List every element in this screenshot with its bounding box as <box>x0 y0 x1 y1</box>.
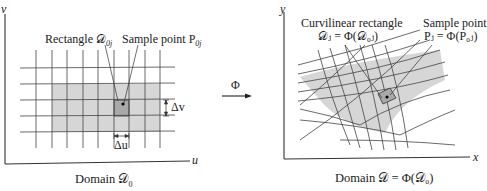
x-axis <box>284 157 470 159</box>
sample-point-label: Sample point P0j <box>122 33 202 50</box>
phi-label: Φ <box>231 79 240 92</box>
shaded-domain-region <box>52 84 160 132</box>
left-caption-sub: 0 <box>128 180 132 189</box>
rectangle-label: Rectangle 𝒟0j <box>45 33 112 50</box>
delta-v-bracket <box>163 100 169 116</box>
v-axis-label: v <box>1 3 6 16</box>
rectangle-label-text: Rectangle 𝒟 <box>45 32 106 46</box>
x-axis-label: x <box>473 151 478 164</box>
sample-point-label-sub: 0j <box>195 39 201 48</box>
left-caption-text: Domain 𝒟 <box>75 172 128 186</box>
curvilinear-rect-label-line2: 𝒟ⱼ = Φ(𝒟₀ⱼ) <box>318 30 378 43</box>
diagram-canvas <box>0 0 487 191</box>
rectangle-d0j <box>114 100 129 116</box>
arrow-head-icon <box>245 94 252 99</box>
rectangle-label-sub: 0j <box>106 39 112 48</box>
y-axis-label: y <box>280 3 285 16</box>
delta-v-label: Δv <box>171 101 185 114</box>
sample-point-pj <box>385 95 388 98</box>
delta-u-label: Δu <box>114 139 128 152</box>
left-caption: Domain 𝒟0 <box>75 172 132 189</box>
right-caption: Domain 𝒟 = Φ(𝒟₀) <box>335 171 434 186</box>
phi-arrow <box>222 94 252 99</box>
sample-point-label-right-line2: Pⱼ = Φ(P₀ⱼ) <box>424 30 477 43</box>
u-axis-label: u <box>192 154 198 167</box>
u-axis <box>5 161 190 164</box>
sample-point-label-text: Sample point P <box>122 32 195 46</box>
